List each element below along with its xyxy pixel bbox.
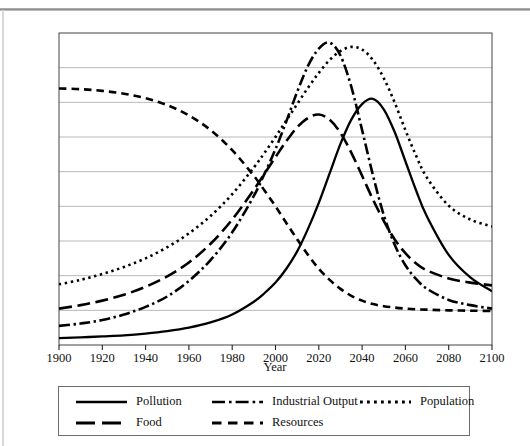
series-line-resources bbox=[59, 88, 492, 311]
legend-label: Population bbox=[420, 394, 474, 409]
legend-swatch-dotted bbox=[359, 396, 412, 408]
x-axis-ticks bbox=[59, 345, 492, 350]
gridlines bbox=[59, 68, 492, 311]
x-tick-label: 1900 bbox=[47, 351, 72, 366]
legend-label: Resources bbox=[272, 415, 323, 430]
x-tick-label: 2060 bbox=[393, 351, 418, 366]
x-tick-label: 2040 bbox=[350, 351, 375, 366]
legend-item-population[interactable]: Population bbox=[359, 391, 471, 412]
series-line-pollution bbox=[59, 99, 492, 338]
series-line-population bbox=[59, 47, 492, 284]
x-axis-title: Year bbox=[263, 360, 286, 375]
legend-row: Food Resources bbox=[59, 412, 471, 433]
x-tick-label: 2100 bbox=[480, 351, 505, 366]
legend-swatch-long-dash bbox=[75, 417, 128, 429]
legend-swatch-dash-dot bbox=[211, 396, 264, 408]
legend-label: Food bbox=[136, 415, 162, 430]
chart-legend: Pollution Industrial Output Population F… bbox=[58, 386, 470, 436]
legend-label: Pollution bbox=[136, 394, 182, 409]
legend-swatch-dash bbox=[211, 417, 264, 429]
legend-item-industrial-output[interactable]: Industrial Output bbox=[211, 391, 359, 412]
plot-frame bbox=[59, 33, 492, 345]
legend-item-food[interactable]: Food bbox=[59, 412, 211, 433]
x-tick-label: 1960 bbox=[176, 351, 201, 366]
plot-canvas bbox=[0, 0, 530, 446]
x-tick-label: 1920 bbox=[90, 351, 115, 366]
legend-label: Industrial Output bbox=[272, 394, 358, 409]
data-series bbox=[59, 42, 492, 338]
legend-row: Pollution Industrial Output Population bbox=[59, 391, 471, 412]
x-tick-label: 1980 bbox=[220, 351, 245, 366]
line-chart-figure: 1900192019401960198020002020204020602080… bbox=[0, 0, 530, 446]
legend-item-pollution[interactable]: Pollution bbox=[59, 391, 211, 412]
x-tick-label: 1940 bbox=[133, 351, 158, 366]
x-tick-label: 2020 bbox=[306, 351, 331, 366]
legend-item-resources[interactable]: Resources bbox=[211, 412, 359, 433]
x-tick-label: 2080 bbox=[436, 351, 461, 366]
legend-swatch-solid bbox=[75, 396, 128, 408]
legend-item-empty bbox=[359, 412, 471, 433]
series-line-food bbox=[59, 114, 492, 308]
